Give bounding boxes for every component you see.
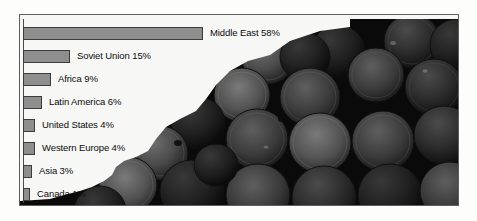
bar-middle-east[interactable] (23, 27, 203, 40)
bar-label-united-states: United States 4% (42, 120, 114, 130)
bar-soviet-union[interactable] (23, 50, 70, 63)
bar-row-africa[interactable]: Africa 9% (23, 72, 98, 86)
bar-row-western-europe[interactable]: Western Europe 4% (23, 141, 125, 155)
bar-label-asia: Asia 3% (39, 166, 73, 176)
bar-asia[interactable] (23, 165, 32, 178)
bar-row-asia[interactable]: Asia 3% (23, 164, 73, 178)
bar-label-canada: Canada 1% (37, 189, 86, 199)
bar-label-latin-america: Latin America 6% (49, 97, 121, 107)
bar-canada[interactable] (23, 188, 30, 201)
bar-chart-layer: Middle East 58% Soviet Union 15% Africa … (20, 15, 459, 206)
bar-western-europe[interactable] (23, 142, 35, 155)
figure-root: Middle East 58% Soviet Union 15% Africa … (0, 0, 477, 221)
bar-label-middle-east: Middle East 58% (210, 28, 280, 38)
bar-africa[interactable] (23, 73, 51, 86)
bar-latin-america[interactable] (23, 96, 42, 109)
bar-united-states[interactable] (23, 119, 35, 132)
bar-label-western-europe: Western Europe 4% (42, 143, 125, 153)
bar-row-soviet-union[interactable]: Soviet Union 15% (23, 49, 151, 63)
bar-row-canada[interactable]: Canada 1% (23, 187, 86, 201)
bar-row-middle-east[interactable]: Middle East 58% (23, 26, 280, 40)
bar-row-united-states[interactable]: United States 4% (23, 118, 114, 132)
bar-label-soviet-union: Soviet Union 15% (77, 51, 151, 61)
bar-row-latin-america[interactable]: Latin America 6% (23, 95, 121, 109)
bar-label-africa: Africa 9% (58, 74, 98, 84)
chart-photo-frame: Middle East 58% Soviet Union 15% Africa … (19, 14, 459, 206)
